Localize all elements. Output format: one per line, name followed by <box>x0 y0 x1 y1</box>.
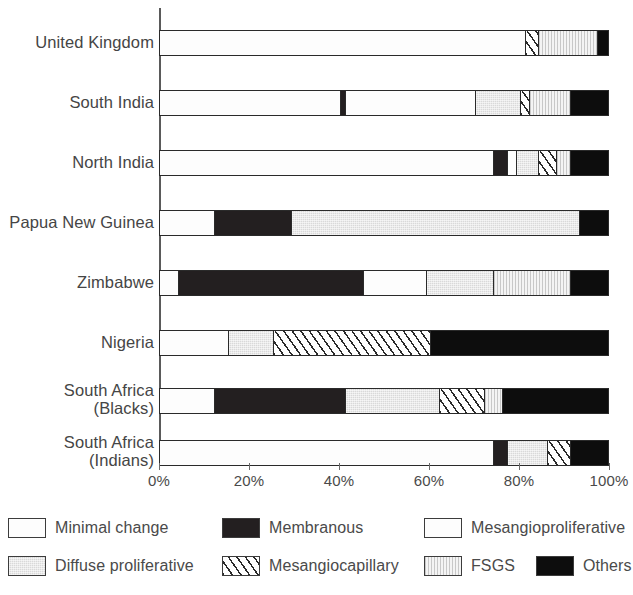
bar-segment <box>160 441 493 465</box>
category-label: South Africa(Indians) <box>0 433 154 470</box>
stacked-bar <box>159 90 609 116</box>
stacked-bar <box>159 270 609 296</box>
bar-segment <box>160 31 525 55</box>
category-label-line: (Indians) <box>0 451 154 469</box>
category-label-line: United Kingdom <box>0 33 154 52</box>
bar-row: Papua New Guinea <box>0 194 633 250</box>
bar-segment <box>160 151 493 175</box>
legend-label: Mesangiocapillary <box>269 557 399 575</box>
bar-segment <box>516 151 539 175</box>
bar-segment <box>214 389 345 413</box>
x-axis-tick-label: 100% <box>574 472 633 489</box>
bar-segment <box>426 271 494 295</box>
x-axis-tick-label: 40% <box>304 472 374 489</box>
bar-row: Nigeria <box>0 314 633 370</box>
category-label: North India <box>0 153 154 172</box>
x-axis-tick <box>519 463 520 470</box>
category-label-line: North India <box>0 153 154 172</box>
bar-row: South India <box>0 74 633 130</box>
legend-item: FSGS <box>424 556 515 576</box>
legend-item: Mesangioproliferative <box>424 518 625 538</box>
bar-segment <box>525 31 539 55</box>
x-axis-tick-label: 20% <box>214 472 284 489</box>
legend-label: Diffuse proliferative <box>55 557 194 575</box>
category-label-line: South India <box>0 93 154 112</box>
legend-label: Others <box>583 557 632 575</box>
legend-swatch <box>222 556 260 576</box>
bar-segment <box>493 271 570 295</box>
legend-label: Membranous <box>269 519 363 537</box>
bar-segment <box>345 389 440 413</box>
bar-segment <box>579 211 610 235</box>
bar-segment <box>507 441 548 465</box>
chart-legend: Minimal changeMembranousMesangioprolifer… <box>0 512 633 595</box>
stacked-bar <box>159 388 609 414</box>
category-label-line: Zimbabwe <box>0 273 154 292</box>
bar-row: South Africa(Blacks) <box>0 372 633 428</box>
bar-segment <box>160 211 214 235</box>
bar-segment <box>502 389 609 413</box>
category-label: United Kingdom <box>0 33 154 52</box>
bar-segment <box>160 331 228 355</box>
bar-row: United Kingdom <box>0 14 633 70</box>
bar-segment <box>597 31 610 55</box>
bar-segment <box>538 31 597 55</box>
legend-item: Others <box>536 556 632 576</box>
bar-segment <box>493 441 507 465</box>
bar-segment <box>570 151 610 175</box>
bar-segment <box>570 91 610 115</box>
x-axis-tick-label: 0% <box>124 472 194 489</box>
stacked-bar <box>159 150 609 176</box>
x-axis-tick <box>249 463 250 470</box>
bar-segment <box>160 91 340 115</box>
x-axis-tick <box>339 463 340 470</box>
legend-item: Minimal change <box>8 518 168 538</box>
x-axis-tick-label: 60% <box>394 472 464 489</box>
category-label-line: South Africa <box>0 433 154 451</box>
legend-item: Diffuse proliferative <box>8 556 194 576</box>
bar-segment <box>178 271 363 295</box>
legend-label: Minimal change <box>55 519 168 537</box>
legend-item: Mesangiocapillary <box>222 556 399 576</box>
bar-segment <box>430 331 609 355</box>
bar-segment <box>475 91 520 115</box>
bar-segment <box>214 211 291 235</box>
category-label: South Africa(Blacks) <box>0 381 154 418</box>
bar-segment <box>273 331 431 355</box>
bar-segment <box>556 151 570 175</box>
bar-segment <box>345 91 476 115</box>
stacked-bar <box>159 440 609 466</box>
legend-label: FSGS <box>471 557 515 575</box>
x-axis-tick <box>609 463 610 470</box>
legend-swatch <box>424 556 462 576</box>
bar-segment <box>363 271 426 295</box>
stacked-bar-chart: United KingdomSouth IndiaNorth IndiaPapu… <box>0 0 633 595</box>
legend-swatch <box>8 556 46 576</box>
stacked-bar <box>159 330 609 356</box>
bar-segment <box>547 441 570 465</box>
category-label: Papua New Guinea <box>0 213 154 232</box>
category-label-line: (Blacks) <box>0 399 154 417</box>
bar-segment <box>160 271 178 295</box>
plot-area: United KingdomSouth IndiaNorth IndiaPapu… <box>0 0 633 470</box>
x-axis-tick <box>429 463 430 470</box>
category-label: Zimbabwe <box>0 273 154 292</box>
legend-label: Mesangioproliferative <box>471 519 625 537</box>
bar-segment <box>529 91 570 115</box>
bar-segment <box>570 271 610 295</box>
bar-segment <box>160 389 214 413</box>
legend-swatch <box>536 556 574 576</box>
category-label-line: Papua New Guinea <box>0 213 154 232</box>
bar-segment <box>484 389 502 413</box>
category-label: Nigeria <box>0 333 154 352</box>
stacked-bar <box>159 30 609 56</box>
bar-segment <box>520 91 529 115</box>
category-label-line: Nigeria <box>0 333 154 352</box>
bar-segment <box>493 151 507 175</box>
legend-swatch <box>222 518 260 538</box>
x-axis-tick-label: 80% <box>484 472 554 489</box>
legend-swatch <box>8 518 46 538</box>
bar-segment <box>538 151 556 175</box>
bar-row: Zimbabwe <box>0 254 633 310</box>
category-label-line: South Africa <box>0 381 154 399</box>
